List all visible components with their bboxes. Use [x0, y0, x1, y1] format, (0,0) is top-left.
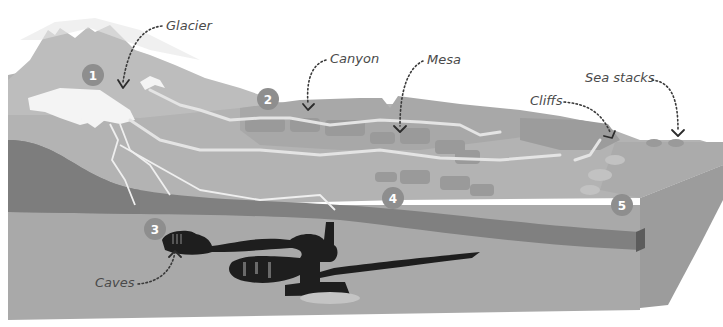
- badge-2: 2: [257, 88, 279, 110]
- badge-4: 4: [382, 187, 404, 209]
- badge-3: 3: [144, 218, 166, 240]
- svg-text:2: 2: [264, 93, 272, 107]
- label-mesa: Mesa: [427, 52, 461, 67]
- label-canyon: Canyon: [330, 51, 379, 66]
- sea-stack: [668, 139, 684, 147]
- label-sea-stacks: Sea stacks: [585, 70, 655, 85]
- cave-pool: [300, 292, 360, 304]
- label-caves: Caves: [95, 275, 135, 290]
- sea-stack: [646, 139, 662, 147]
- svg-text:4: 4: [389, 192, 397, 206]
- band-edge: [636, 228, 645, 252]
- label-glacier: Glacier: [166, 18, 213, 33]
- badge-5: 5: [611, 194, 633, 216]
- landforms-diagram: 1 2 3 4 5 Glacier Canyon Mesa Cliffs Sea…: [0, 0, 723, 327]
- cave-entrance-marks: [172, 234, 182, 244]
- svg-text:3: 3: [151, 223, 159, 237]
- label-cliffs: Cliffs: [530, 93, 563, 108]
- svg-text:1: 1: [89, 69, 97, 83]
- svg-text:5: 5: [618, 199, 626, 213]
- badge-1: 1: [82, 64, 104, 86]
